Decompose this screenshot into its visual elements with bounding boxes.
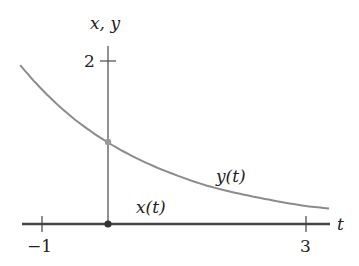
y0-point: [105, 139, 111, 145]
x0-point: [104, 220, 111, 227]
x-axis-label: t: [337, 214, 344, 234]
y-series-curve: [20, 65, 329, 208]
x-tick-label-3: 3: [300, 236, 311, 256]
y-series-label: y(t): [215, 166, 246, 186]
y-axis-label: x, y: [90, 13, 120, 33]
chart-canvas: x, y 2 −1 3 t y(t) x(t): [0, 0, 359, 266]
y-tick-label-2: 2: [84, 51, 95, 71]
x-series-label: x(t): [136, 197, 166, 217]
phase-plot-chart: x, y 2 −1 3 t y(t) x(t): [0, 0, 359, 266]
x-tick-label-minus1: −1: [27, 236, 52, 256]
